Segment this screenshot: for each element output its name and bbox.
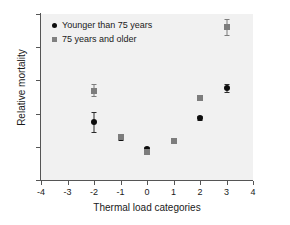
x-tick-mark (200, 181, 201, 185)
x-tick-mark (147, 181, 148, 185)
error-bar-cap (224, 19, 229, 20)
circle-marker-icon (52, 23, 57, 28)
data-point (224, 24, 230, 30)
y-tick-mark (36, 47, 41, 48)
x-tick-label: 2 (188, 187, 212, 197)
legend-item-younger: Younger than 75 years (52, 19, 152, 31)
data-point (118, 134, 124, 140)
x-tick-label: -3 (56, 187, 80, 197)
x-tick-label: -2 (82, 187, 106, 197)
error-bar-cap (92, 112, 97, 113)
data-point (91, 88, 97, 94)
data-point (91, 119, 97, 125)
error-bar-cap (92, 84, 97, 85)
y-tick-mark (36, 147, 41, 148)
error-bar-cap (224, 92, 229, 93)
x-axis-title: Thermal load categories (41, 202, 253, 213)
x-tick-label: 0 (135, 187, 159, 197)
error-bar-cap (92, 132, 97, 133)
y-tick-mark (36, 14, 41, 15)
legend-label-older: 75 years and older (62, 34, 137, 44)
data-point (171, 138, 177, 144)
legend-label-younger: Younger than 75 years (62, 20, 152, 30)
legend: Younger than 75 years 75 years and older (52, 19, 152, 47)
x-tick-mark (227, 181, 228, 185)
x-tick-mark (121, 181, 122, 185)
error-bar-cap (92, 96, 97, 97)
data-point (224, 85, 230, 91)
x-tick-mark (41, 181, 42, 185)
x-tick-label: 1 (162, 187, 186, 197)
relative-mortality-scatter-chart: 95100105110115120 -4-3-2-101234 Younger … (0, 0, 290, 225)
square-marker-icon (52, 37, 57, 42)
y-axis-line (40, 13, 41, 181)
x-tick-mark (68, 181, 69, 185)
data-point (144, 149, 150, 155)
data-point (197, 115, 203, 121)
x-tick-mark (174, 181, 175, 185)
y-tick-mark (36, 114, 41, 115)
legend-item-older: 75 years and older (52, 33, 152, 45)
data-point (197, 95, 203, 101)
x-tick-label: -1 (109, 187, 133, 197)
x-tick-mark (94, 181, 95, 185)
x-tick-mark (253, 181, 254, 185)
y-axis-title: Relative mortality (16, 13, 27, 163)
x-tick-label: -4 (29, 187, 53, 197)
x-tick-label: 3 (215, 187, 239, 197)
y-tick-mark (36, 80, 41, 81)
error-bar-cap (224, 35, 229, 36)
x-tick-label: 4 (241, 187, 265, 197)
